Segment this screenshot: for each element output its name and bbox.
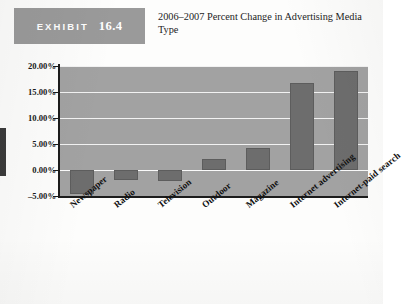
bar xyxy=(202,159,226,170)
exhibit-header: EXHIBIT 16.4 2006–2007 Percent Change in… xyxy=(14,8,369,44)
y-axis-tick-mark xyxy=(53,196,59,197)
bar xyxy=(246,148,270,170)
bar xyxy=(158,170,182,181)
y-axis-tick-mark xyxy=(53,92,59,93)
bar xyxy=(114,170,138,180)
y-axis-tick-labels: 20.00%15.00%10.00%5.00%0.00%–5.00% xyxy=(6,52,56,202)
y-axis-tick-label: 20.00% xyxy=(6,61,56,71)
y-axis-tick-label: 15.00% xyxy=(6,87,56,97)
exhibit-title: 2006–2007 Percent Change in Advertising … xyxy=(145,8,369,44)
y-axis-tick-label: 10.00% xyxy=(6,113,56,123)
y-axis-tick-label: 0.00% xyxy=(6,165,56,175)
y-axis-tick-mark xyxy=(53,170,59,171)
y-axis-tick-mark xyxy=(53,66,59,67)
exhibit-word-label: EXHIBIT xyxy=(37,21,89,32)
page-edge-artifact xyxy=(0,128,6,176)
y-axis-tick-mark xyxy=(53,118,59,119)
gridline xyxy=(60,118,368,119)
exhibit-tag: EXHIBIT 16.4 xyxy=(14,8,145,44)
exhibit-number-label: 16.4 xyxy=(99,19,122,34)
y-axis-tick-mark xyxy=(53,144,59,145)
y-axis-tick-label: –5.00% xyxy=(6,191,56,201)
gridline xyxy=(60,144,368,145)
gridline xyxy=(60,66,368,67)
bar xyxy=(290,83,314,170)
gridline xyxy=(60,92,368,93)
y-axis-tick-label: 5.00% xyxy=(6,139,56,149)
zero-gridline xyxy=(60,170,368,171)
bar-chart: 20.00%15.00%10.00%5.00%0.00%–5.00% Newsp… xyxy=(0,52,383,304)
